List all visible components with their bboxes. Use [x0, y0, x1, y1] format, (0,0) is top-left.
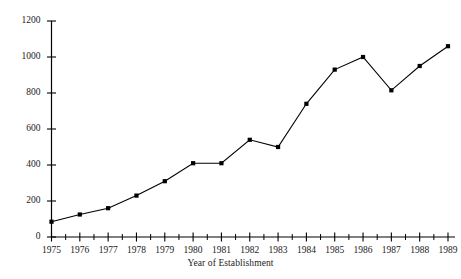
- data-point-marker: [304, 102, 308, 106]
- line-chart: 020040060080010001200 197519761977197819…: [0, 0, 461, 279]
- y-axis-tick-label: 200: [0, 195, 41, 205]
- data-point-markers: [49, 44, 450, 224]
- data-point-marker: [134, 194, 138, 198]
- y-axis-tick-label: 1200: [0, 15, 41, 25]
- data-point-marker: [418, 64, 422, 68]
- x-axis-tick-label: 1989: [426, 245, 461, 255]
- data-point-marker: [276, 145, 280, 149]
- data-point-marker: [248, 138, 252, 142]
- data-series-line: [52, 46, 449, 222]
- y-axis-tick-label: 600: [0, 123, 41, 133]
- y-axis-tick-label: 0: [0, 231, 41, 241]
- data-point-marker: [446, 44, 450, 48]
- data-point-marker: [49, 220, 53, 224]
- axis-lines: [51, 21, 455, 238]
- y-axis-tick-label: 1000: [0, 51, 41, 61]
- y-axis-tick-label: 800: [0, 87, 41, 97]
- data-point-marker: [191, 161, 195, 165]
- y-axis-tick-label: 400: [0, 159, 41, 169]
- data-point-marker: [361, 55, 365, 59]
- data-point-marker: [163, 179, 167, 183]
- x-axis-title: Year of Establishment: [0, 258, 461, 268]
- data-point-marker: [219, 161, 223, 165]
- data-point-marker: [389, 88, 393, 92]
- data-point-marker: [333, 68, 337, 72]
- data-point-marker: [78, 212, 82, 216]
- data-point-marker: [106, 206, 110, 210]
- plot-area: [0, 0, 461, 279]
